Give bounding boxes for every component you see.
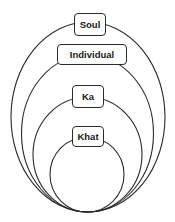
label-individual: Individual bbox=[57, 44, 127, 65]
ellipse-ka bbox=[33, 97, 142, 212]
label-khat: Khat bbox=[72, 126, 104, 147]
label-soul: Soul bbox=[74, 13, 106, 36]
label-ka: Ka bbox=[72, 85, 104, 108]
ellipse-khat bbox=[50, 137, 124, 212]
